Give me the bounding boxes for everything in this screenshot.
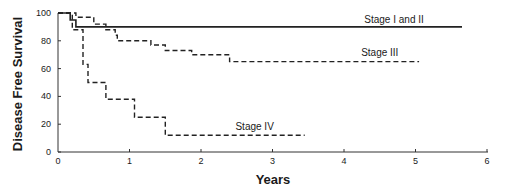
chart-svg: 0123456 020406080100 Stage I and IIStage… [0, 0, 506, 191]
series-label: Stage III [361, 47, 398, 58]
x-tick-label: 2 [198, 156, 203, 166]
y-tick-label: 60 [41, 64, 51, 74]
series-lines [58, 13, 462, 135]
y-axis-label: Disease Free Survival [10, 17, 25, 151]
x-tick-label: 6 [484, 156, 489, 166]
y-tick-label: 40 [41, 91, 51, 101]
y-tick-label: 0 [46, 147, 51, 157]
x-tick-label: 1 [127, 156, 132, 166]
x-tick-label: 4 [341, 156, 346, 166]
y-tick-label: 20 [41, 119, 51, 129]
x-tick-label: 3 [270, 156, 275, 166]
series-label: Stage IV [235, 121, 274, 132]
x-axis-label: Years [256, 172, 291, 187]
kaplan-meier-chart: 0123456 020406080100 Stage I and IIStage… [0, 0, 506, 191]
series-label: Stage I and II [364, 14, 424, 25]
series-labels: Stage I and IIStage IIIStage IV [235, 14, 423, 132]
series-line-2 [58, 13, 305, 135]
x-tick-label: 5 [413, 156, 418, 166]
y-tick-label: 80 [41, 36, 51, 46]
x-tick-label: 0 [55, 156, 60, 166]
y-tick-label: 100 [36, 8, 51, 18]
y-ticks: 020406080100 [36, 8, 61, 157]
